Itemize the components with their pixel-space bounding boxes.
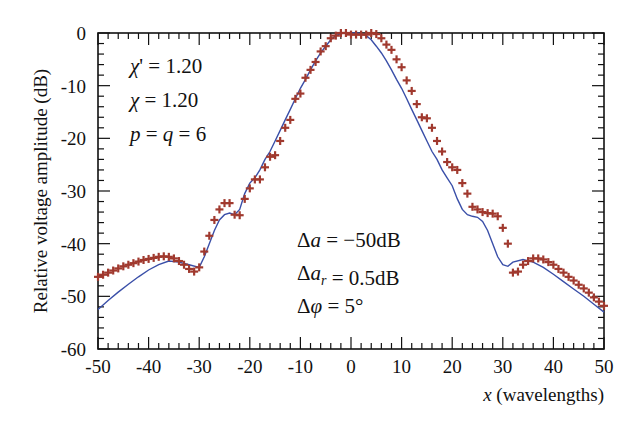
annotation-line: χ' = 1.20 xyxy=(128,54,202,78)
x-tick-label: 20 xyxy=(443,356,462,377)
annotation-line: Δa = −50dB xyxy=(297,228,401,252)
y-tick-label: -60 xyxy=(61,339,86,360)
measured-point xyxy=(195,263,203,271)
measured-point xyxy=(256,175,264,183)
measured-point xyxy=(246,184,254,192)
x-tick-label: -20 xyxy=(237,356,262,377)
parameter-annotation-center: Δa = −50dBΔar = 0.5dBΔφ = 5° xyxy=(297,228,401,318)
measured-point xyxy=(215,205,223,213)
measured-point xyxy=(590,293,598,301)
measured-point xyxy=(463,190,471,198)
measured-point xyxy=(205,232,213,240)
y-tick-label: -50 xyxy=(61,286,86,307)
x-tick-label: -30 xyxy=(187,356,212,377)
x-axis-label: x (wavelengths) xyxy=(482,384,604,406)
y-tick-label: -10 xyxy=(61,76,86,97)
y-tick-label: 0 xyxy=(77,23,87,44)
x-tick-label: 40 xyxy=(544,356,563,377)
x-tick-label: -10 xyxy=(288,356,313,377)
measured-point xyxy=(124,261,132,269)
measured-point xyxy=(129,259,137,267)
measured-point xyxy=(504,240,512,248)
measured-point xyxy=(433,137,441,145)
y-tick-label: -30 xyxy=(61,181,86,202)
measured-point xyxy=(423,114,431,122)
measured-point xyxy=(413,100,421,108)
chart: -50-40-30-20-10010203040500-10-20-30-40-… xyxy=(0,0,638,433)
y-tick-label: -20 xyxy=(61,128,86,149)
measured-point xyxy=(408,87,416,95)
x-tick-label: 10 xyxy=(392,356,411,377)
measured-point xyxy=(443,158,451,166)
measured-point xyxy=(398,63,406,71)
measured-point xyxy=(403,76,411,84)
x-tick-label: 30 xyxy=(493,356,512,377)
measured-point xyxy=(428,124,436,132)
measured-point xyxy=(271,151,279,159)
annotation-line: p = q = 6 xyxy=(128,122,206,146)
annotation-line: χ = 1.20 xyxy=(128,88,198,112)
measured-point xyxy=(458,179,466,187)
measured-point xyxy=(291,95,299,103)
annotation-line: Δφ = 5° xyxy=(297,294,363,318)
x-tick-label: -40 xyxy=(136,356,161,377)
x-tick-label: 0 xyxy=(346,356,356,377)
measured-point xyxy=(266,153,274,161)
measured-point xyxy=(296,90,304,98)
measured-point xyxy=(600,302,608,310)
measured-point xyxy=(514,268,522,276)
measured-point xyxy=(210,216,218,224)
measured-point xyxy=(165,253,173,261)
measured-point xyxy=(372,30,380,38)
x-tick-label: -50 xyxy=(85,356,110,377)
measured-point xyxy=(134,258,142,266)
measured-point xyxy=(276,137,284,145)
measured-point xyxy=(382,41,390,49)
measured-point xyxy=(342,29,350,37)
measured-point xyxy=(438,148,446,156)
measured-point xyxy=(377,34,385,42)
annotation-line: Δar = 0.5dB xyxy=(297,261,400,290)
x-tick-label: 50 xyxy=(595,356,614,377)
y-tick-label: -40 xyxy=(61,234,86,255)
measured-point xyxy=(226,199,234,207)
measured-point xyxy=(499,224,507,232)
measured-point xyxy=(387,46,395,54)
measured-point xyxy=(307,66,315,74)
measured-point xyxy=(286,116,294,124)
measured-point xyxy=(595,298,603,306)
parameter-annotation-top-left: χ' = 1.20χ = 1.20p = q = 6 xyxy=(128,54,206,146)
y-axis-label: Relative voltage amplitude (dB) xyxy=(30,69,52,313)
measured-point xyxy=(585,289,593,297)
measured-point xyxy=(393,55,401,63)
